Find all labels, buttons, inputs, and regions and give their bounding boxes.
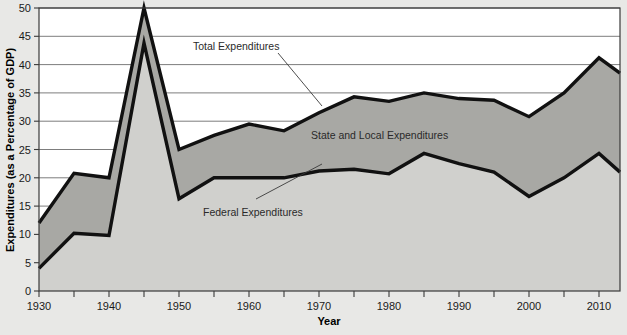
chart-canvas: 193019401950196019701980199020002010 051…	[0, 0, 627, 335]
annotation-federal-expenditures: Federal Expenditures	[203, 206, 303, 218]
x-axis-tick-labels: 193019401950196019701980199020002010	[27, 300, 611, 312]
x-axis-tick-label: 2010	[587, 300, 611, 312]
x-axis-tick-label: 1950	[167, 300, 191, 312]
expenditures-area-chart: 193019401950196019701980199020002010 051…	[0, 0, 627, 335]
y-axis-tick-label: 20	[19, 172, 31, 184]
y-axis-tick-labels: 05101520253035404550	[19, 2, 31, 297]
x-axis-tick-label: 1940	[97, 300, 121, 312]
y-axis-tick-label: 5	[25, 257, 31, 269]
x-axis-tick-label: 1930	[27, 300, 51, 312]
y-axis-tick-label: 25	[19, 144, 31, 156]
y-axis-ticks	[34, 8, 39, 291]
y-axis-tick-label: 15	[19, 200, 31, 212]
x-axis-tick-label: 1970	[307, 300, 331, 312]
x-axis-title: Year	[317, 315, 341, 327]
y-axis-tick-label: 30	[19, 115, 31, 127]
y-axis-title: Expenditures (as a Percentage of GDP)	[4, 48, 16, 253]
x-axis-tick-label: 1990	[447, 300, 471, 312]
y-axis-tick-label: 45	[19, 30, 31, 42]
annotation-state-and-local-expenditures: State and Local Expenditures	[311, 129, 448, 141]
y-axis-tick-label: 50	[19, 2, 31, 14]
y-axis-tick-label: 35	[19, 87, 31, 99]
annotation-total-expenditures: Total Expenditures	[193, 40, 279, 52]
x-axis-tick-label: 1960	[237, 300, 261, 312]
y-axis-tick-label: 40	[19, 59, 31, 71]
y-axis-tick-label: 0	[25, 285, 31, 297]
x-axis-ticks	[39, 291, 599, 297]
x-axis-tick-label: 1980	[377, 300, 401, 312]
y-axis-tick-label: 10	[19, 228, 31, 240]
x-axis-tick-label: 2000	[517, 300, 541, 312]
